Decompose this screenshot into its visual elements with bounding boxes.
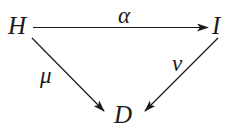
node-h: H xyxy=(8,13,26,38)
edge-label-nu: ν xyxy=(172,52,182,75)
node-i: I xyxy=(212,13,220,38)
commutative-diagram: H I D α μ ν xyxy=(0,0,238,134)
node-d: D xyxy=(114,102,132,127)
edge-label-alpha: α xyxy=(118,4,130,27)
edge-label-mu: μ xyxy=(40,64,52,87)
